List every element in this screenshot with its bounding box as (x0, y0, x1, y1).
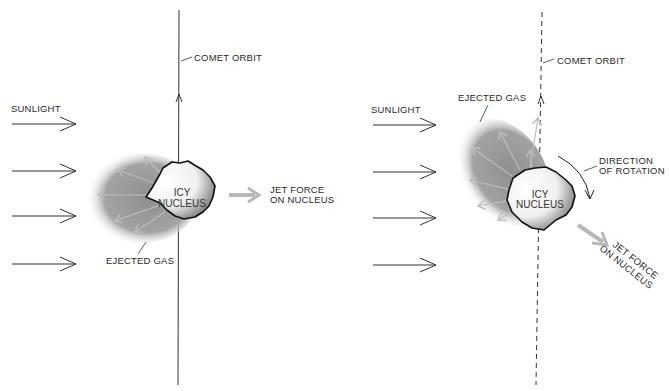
ejected-gas-label: EJECTED GAS (106, 255, 174, 266)
sunlight-label: SUNLIGHT (11, 103, 61, 114)
orbit-label: COMET ORBIT (557, 55, 625, 66)
ejected-gas-label: EJECTED GAS (458, 92, 526, 103)
comet-jet-diagram: COMET ORBIT SUNLIGHT ICY NUCLEUS JET FOR… (0, 0, 669, 391)
jet-force-arrow-icon (578, 225, 607, 245)
orbit-label: COMET ORBIT (194, 52, 262, 63)
left-panel: COMET ORBIT SUNLIGHT ICY NUCLEUS JET FOR… (11, 10, 334, 385)
sunlight-arrows-icon (373, 118, 436, 272)
jet-force-arrow-icon (229, 188, 259, 202)
jet-force-label-line2: ON NUCLEUS (270, 194, 334, 205)
nucleus-label-line2: NUCLEUS (158, 198, 206, 209)
nucleus-label-line2: NUCLEUS (516, 199, 564, 210)
sunlight-label: SUNLIGHT (371, 104, 421, 115)
sunlight-arrows-icon (12, 117, 76, 271)
nucleus-label-line1: ICY (174, 187, 191, 198)
right-panel: COMET ORBIT SUNLIGHT ICY NUCLEUS DIRECTI… (371, 12, 665, 385)
rotation-label-line2: OF ROTATION (599, 165, 665, 176)
